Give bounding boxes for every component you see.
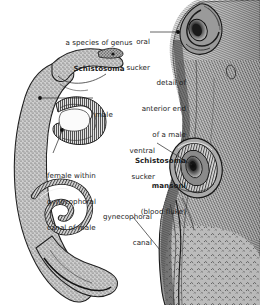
label-oral-sucker-line-1: oral	[108, 38, 150, 47]
label-ventral-sucker-line-2: sucker	[110, 173, 155, 182]
detail-line-2: anterior end	[118, 105, 186, 114]
label-gyne-canal-line-2: canal	[95, 239, 152, 248]
oral-sucker	[176, 4, 222, 55]
label-gynecophoral-canal: gynecophoral canal	[95, 196, 152, 265]
male-marker-dot	[38, 96, 42, 100]
ventral-sucker-marker-dot	[191, 164, 195, 168]
label-gyne-canal-line-1: gynecophoral	[95, 213, 152, 222]
label-female-line-1: female within	[47, 172, 109, 181]
detail-line-1: detail of	[118, 79, 186, 88]
leader-female-within	[53, 131, 62, 153]
oral-sucker-marker-dot	[176, 30, 180, 34]
label-ventral-sucker: ventral sucker	[110, 130, 155, 199]
female-marker-dot	[60, 128, 64, 132]
schistosoma-figure: a species of genus Schistosoma oral suck…	[0, 0, 260, 305]
label-ventral-sucker-line-1: ventral	[110, 147, 155, 156]
